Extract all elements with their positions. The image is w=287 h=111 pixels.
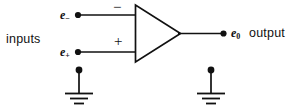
output-variable-subscript: 0 xyxy=(236,32,240,41)
triangle-amplifier xyxy=(136,5,181,62)
noninverting-input-subscript: + xyxy=(65,51,70,60)
opamp-circuit-diagram: inputs e− e+ e0 output − + xyxy=(0,0,287,111)
input-ground-symbol xyxy=(65,67,93,104)
circuit-schematic-canvas xyxy=(0,0,287,111)
output-ground-symbol xyxy=(197,67,225,104)
inverting-input-label: e− xyxy=(60,9,70,23)
noninverting-input-label: e+ xyxy=(60,46,70,60)
output-label: output xyxy=(249,27,285,40)
inputs-label: inputs xyxy=(6,33,41,46)
output-node-dot xyxy=(220,30,226,36)
minus-terminal-label: − xyxy=(113,0,121,15)
noninverting-input-node-dot xyxy=(75,49,81,55)
plus-terminal-label: + xyxy=(114,34,122,49)
output-variable-label: e0 xyxy=(231,27,240,41)
inverting-input-subscript: − xyxy=(65,14,70,23)
inverting-input-node-dot xyxy=(75,12,81,18)
